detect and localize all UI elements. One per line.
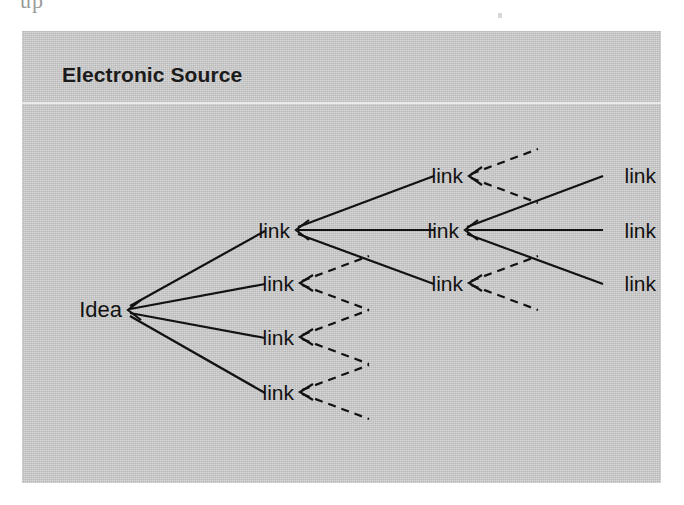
stub-c2n2-a [302,256,369,281]
stub-c3n3-b [471,285,538,310]
node-label-c4n3[interactable]: link [624,273,656,294]
arrowheads [128,167,482,400]
arrowhead-c2n3 [300,329,313,345]
stub-c2n3-b [302,339,369,364]
stub-c2n3-a [302,310,369,335]
node-label-c4n1[interactable]: link [624,165,656,186]
stub-c2n2-b [302,285,369,310]
node-label-c3n2[interactable]: link [427,220,459,241]
edge-c3n2-c4n3 [467,234,603,284]
arrowhead-c2n2 [300,275,313,291]
node-label-c2n2[interactable]: link [262,273,294,294]
stub-c3n3-a [471,256,538,281]
dashed-stubs [302,149,538,419]
stub-c2n4-a [302,365,369,390]
node-label-idea[interactable]: Idea [79,299,122,321]
arrowhead-c3n3 [469,275,482,291]
node-label-c2n1[interactable]: link [258,220,290,241]
stub-c3n1-b [471,178,538,203]
link-tree-diagram: Idea link link link link link link link … [22,31,661,483]
page-canvas: up Electronic Source [0,0,684,505]
edge-idea-c2n3 [130,313,265,338]
edge-idea-c2n2 [130,284,265,309]
page-top-text-fragment: up [20,0,44,12]
stub-c2n4-b [302,394,369,419]
stub-c3n1-a [471,149,538,174]
arrowhead-c2n4 [300,384,313,400]
link-tree-svg [22,31,661,483]
edge-idea-c2n4 [130,316,265,393]
node-label-c3n1[interactable]: link [431,165,463,186]
solid-edges [130,176,603,393]
node-label-c2n3[interactable]: link [262,327,294,348]
arrowhead-c3n1 [469,167,482,185]
page-speck [498,13,502,18]
node-label-c2n4[interactable]: link [262,382,294,403]
edge-idea-c2n1 [130,231,265,306]
edge-c2n1-c3n1 [298,176,434,227]
node-label-c4n2[interactable]: link [624,220,656,241]
edge-c2n1-c3n3 [298,234,434,284]
node-label-c3n3[interactable]: link [431,273,463,294]
electronic-source-figure: Electronic Source [22,31,661,483]
